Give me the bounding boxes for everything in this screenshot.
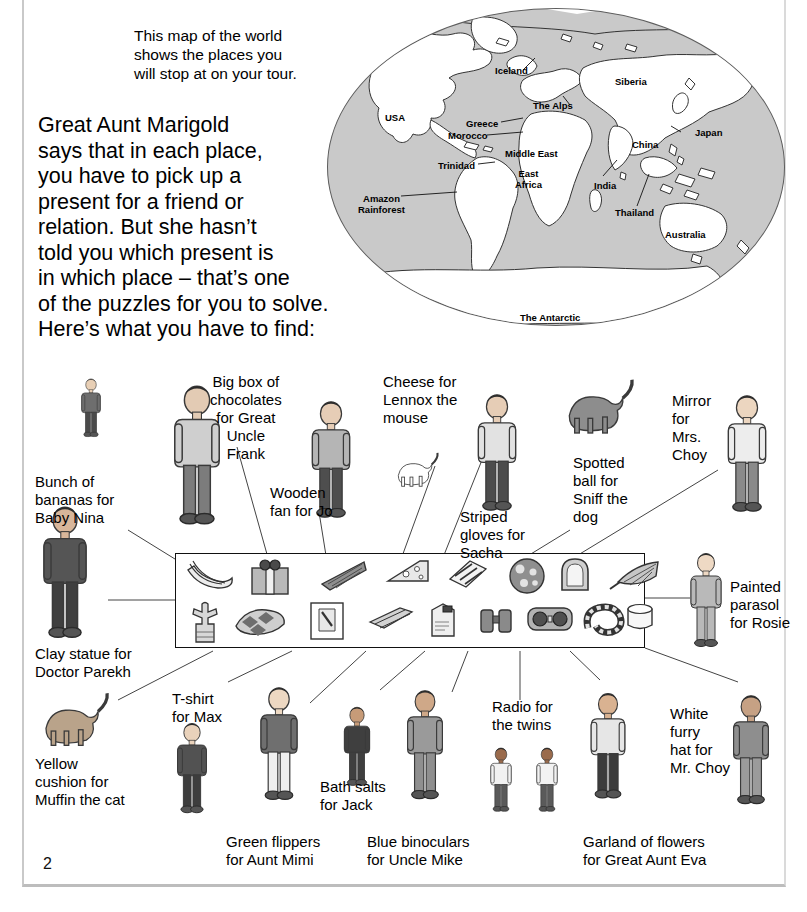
figure-uncle-mike [396,664,454,830]
figure-jo [300,378,362,546]
present-bunch-of-bananas[interactable] [184,558,234,596]
page-number: 2 [43,855,52,873]
caption-flippers: Green flippers for Aunt Mimi [226,833,320,869]
map-label-the-antarctic: The Antarctic [520,312,580,323]
caption-bathsalts: Bath salts for Jack [320,778,386,814]
present-clay-statue[interactable] [188,600,222,648]
map-label-usa: USA [385,112,405,123]
present-big-box-chocolates[interactable] [248,556,292,600]
map-caption-text: This map of the world shows the places y… [134,26,334,83]
caption-parasol: Painted parasol for Rosie [730,578,790,632]
caption-gloves: Striped gloves for Sacha [460,508,525,562]
map-label-china: China [632,139,658,150]
caption-chocolates: Big box of chocolates for Great Uncle Fr… [210,373,282,463]
map-label-thailand: Thailand [615,207,654,218]
map-label-japan: Japan [695,127,722,138]
caption-furryhat: White furry hat for Mr. Choy [670,705,730,777]
caption-garland: Garland of flowers for Great Aunt Eva [583,833,706,869]
world-map: USAIcelandSiberiaThe AlpsGreeceJapanMoro… [327,8,787,328]
present-striped-gloves[interactable] [444,557,490,595]
caption-bananas: Bunch of bananas for Baby Nina [35,473,114,527]
present-cheese[interactable] [384,557,432,593]
map-label-siberia: Siberia [615,76,647,87]
present-bath-salts[interactable] [428,600,458,644]
present-mirror[interactable] [558,556,592,598]
figure-mr-choy [722,676,780,828]
present-spotted-ball[interactable] [506,557,548,599]
figure-sniff-dog [556,376,636,438]
present-painted-parasol[interactable] [608,558,662,596]
figure-muffin-cat [33,690,111,750]
caption-mirror: Mirror for Mrs. Choy [672,392,711,464]
figure-great-aunt-eva [580,672,636,824]
caption-statue: Clay statue for Doctor Parekh [35,645,132,681]
present-yellow-cushion[interactable] [232,606,288,642]
present-white-furry-hat[interactable] [624,602,656,636]
figure-twin-a [484,736,518,826]
map-label-east-africa: East Africa [515,168,542,190]
map-label-morocco: Morocco [448,130,488,141]
map-label-australia: Australia [665,229,706,240]
present-blue-binoculars[interactable] [478,604,514,640]
page-canvas: This map of the world shows the places y… [0,0,807,912]
present-green-flippers[interactable] [366,604,416,638]
caption-cheese: Cheese for Lennox the mouse [383,373,457,427]
figure-mrs-choy [716,376,778,536]
map-label-india: India [594,180,616,191]
figure-rosie [680,552,732,652]
intro-body-text: Great Aunt Marigold says that in each pl… [38,113,338,343]
caption-tshirt: T-shirt for Max [172,690,222,726]
map-label-greece: Greece [466,118,498,129]
caption-cushion: Yellow cushion for Muffin the cat [35,755,125,809]
map-label-trinidad: Trinidad [438,160,475,171]
map-label-amazon-rainforest: Amazon Rainforest [358,193,405,215]
caption-binoculars: Blue binoculars for Uncle Mike [367,833,470,869]
present-garland-of-flowers[interactable] [582,602,626,640]
present-radio[interactable] [526,604,574,636]
figure-baby-nina [62,378,120,440]
figure-aunt-mimi [249,666,309,826]
figure-max [168,714,216,826]
present-t-shirt[interactable] [308,600,346,646]
continents-svg [327,8,787,328]
map-label-middle-east: Middle East [505,148,558,159]
caption-fan: Wooden fan for Jo [270,484,333,520]
caption-ball: Spotted ball for Sniff the dog [573,454,628,526]
caption-radio: Radio for the twins [492,698,553,734]
figure-twin-b [530,736,564,826]
map-label-iceland: Iceland [495,65,528,76]
figure-lennox-mouse [390,440,440,500]
map-label-the-alps: The Alps [533,100,573,111]
presents-box [175,553,645,648]
present-wooden-fan[interactable] [316,558,368,596]
